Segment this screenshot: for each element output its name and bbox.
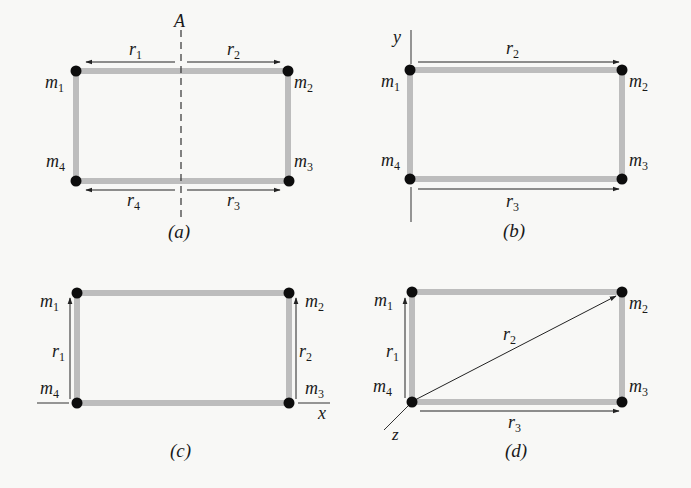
- vector-r2-label: r2: [227, 39, 240, 62]
- panel-caption: (a): [168, 221, 190, 243]
- mass-m3-label: m3: [629, 376, 648, 399]
- rectangle-frame: [410, 70, 622, 179]
- mass-m2-label: m2: [294, 72, 313, 95]
- mass-m2: [283, 66, 294, 77]
- panel-b: y r2 r3 m1 m2 m3 m4 (b): [381, 27, 648, 242]
- vector-r2-label: r2: [506, 38, 519, 61]
- mass-m3: [284, 176, 295, 187]
- vector-r3-label: r3: [227, 190, 240, 213]
- mass-m3: [284, 398, 295, 409]
- mass-m4-label: m4: [381, 150, 400, 173]
- axis-label: y: [391, 27, 401, 47]
- mass-m2: [284, 288, 295, 299]
- vector-r4-label: r4: [127, 190, 140, 213]
- rectangle-frame: [76, 71, 288, 181]
- mass-m2-label: m2: [629, 71, 648, 94]
- mass-m1: [71, 66, 82, 77]
- vector-r2-label: r2: [299, 341, 312, 364]
- mass-m4: [71, 176, 82, 187]
- mass-m3: [617, 397, 628, 408]
- vector-r3-label: r3: [508, 412, 521, 435]
- mass-m2-label: m2: [305, 291, 324, 314]
- vector-r1-label: r1: [129, 39, 142, 62]
- mass-m1: [407, 287, 418, 298]
- mass-m3-label: m3: [294, 151, 313, 174]
- axis-label: z: [391, 425, 399, 444]
- mass-m2: [617, 287, 628, 298]
- mass-m1: [405, 65, 416, 76]
- mass-m1-label: m1: [374, 290, 393, 313]
- mass-m1-label: m1: [40, 291, 59, 314]
- mass-m1-label: m1: [381, 71, 400, 94]
- figure-rotational-inertia-rectangle: A r1 r2 r3 r4 m1 m2 m3 m4 (a) y r2 r3: [0, 0, 691, 488]
- vector-r3-label: r3: [506, 191, 519, 214]
- panel-caption: (d): [505, 440, 527, 462]
- mass-m3-label: m3: [305, 378, 324, 401]
- panel-caption: (b): [503, 220, 525, 242]
- mass-m1: [72, 288, 83, 299]
- diagram-canvas: A r1 r2 r3 r4 m1 m2 m3 m4 (a) y r2 r3: [0, 0, 691, 488]
- mass-m4: [405, 174, 416, 185]
- mass-m3-label: m3: [629, 150, 648, 173]
- axis-label: x: [317, 403, 326, 423]
- vector-r2-label: r2: [503, 324, 516, 347]
- panel-a: A r1 r2 r3 r4 m1 m2 m3 m4 (a): [45, 11, 313, 243]
- mass-m4-label: m4: [373, 376, 392, 399]
- mass-m1-label: m1: [45, 72, 64, 95]
- mass-m4-label: m4: [40, 378, 59, 401]
- mass-m4: [407, 397, 418, 408]
- rectangle-frame: [77, 293, 289, 403]
- mass-m2-label: m2: [629, 293, 648, 316]
- mass-m4: [72, 398, 83, 409]
- panel-c: x r1 r2 m1 m2 m3 m4 (c): [37, 288, 330, 463]
- mass-m4-label: m4: [46, 151, 65, 174]
- panel-caption: (c): [170, 440, 191, 462]
- vector-r1-label: r1: [386, 341, 399, 364]
- mass-m2: [617, 65, 628, 76]
- vector-r1-label: r1: [52, 341, 65, 364]
- vector-r2-arrow: [413, 296, 616, 401]
- panel-d: z r1 r2 r3 m1 m2 m3 m4 (d): [373, 287, 648, 463]
- axis-label: A: [173, 11, 186, 31]
- mass-m3: [617, 174, 628, 185]
